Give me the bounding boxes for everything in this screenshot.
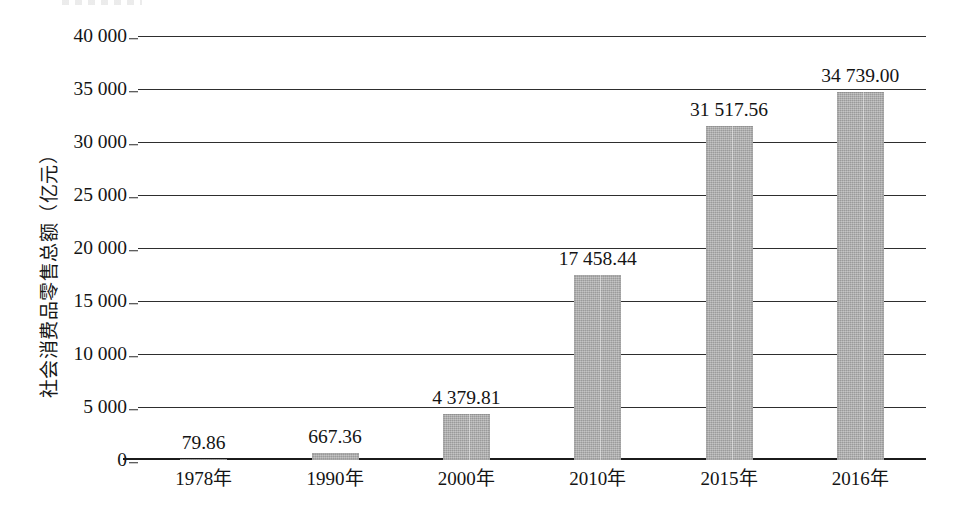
- bar-highlight-seam: [600, 275, 601, 460]
- y-tick-mark: [129, 356, 138, 357]
- x-axis-tick-label: 2010年: [569, 468, 626, 491]
- bar-highlight-seam: [469, 414, 470, 460]
- y-axis-tick-label: 5 000: [52, 397, 138, 417]
- y-tick-text: 30 000: [73, 131, 127, 152]
- y-tick-mark: [129, 91, 138, 92]
- gridline: [138, 248, 926, 249]
- bar: [574, 275, 621, 460]
- y-tick-text: 25 000: [73, 184, 127, 205]
- bar-highlight-seam: [863, 92, 864, 460]
- gridline: [138, 407, 926, 408]
- bar-value-label: 4 379.81: [432, 388, 500, 408]
- y-axis-tick-label: 0: [52, 450, 138, 470]
- y-axis-tick-label: 30 000: [52, 132, 138, 152]
- bar: [706, 126, 753, 460]
- y-tick-text: 10 000: [73, 343, 127, 364]
- bar-value-label: 34 739.00: [821, 66, 899, 86]
- x-axis-line: [123, 458, 926, 460]
- gridline: [138, 354, 926, 355]
- x-axis-tick-label: 1978年: [175, 468, 232, 491]
- bar-value-label: 17 458.44: [559, 249, 637, 269]
- y-axis-tick-label: 20 000: [52, 238, 138, 258]
- gridline: [138, 142, 926, 143]
- y-tick-text: 35 000: [73, 78, 127, 99]
- y-tick-mark: [129, 462, 138, 463]
- y-axis-tick-label: 25 000: [52, 185, 138, 205]
- x-axis-tick-label: 2000年: [438, 468, 495, 491]
- x-axis-tick-label: 1990年: [307, 468, 364, 491]
- y-tick-mark: [129, 197, 138, 198]
- bar: [837, 92, 884, 460]
- gridline: [138, 195, 926, 196]
- bar: [443, 414, 490, 460]
- bar-chart: 社会消费品零售总额（亿元） 05 00010 00015 00020 00025…: [0, 0, 964, 520]
- bar: [312, 453, 359, 460]
- y-tick-text: 40 000: [73, 25, 127, 46]
- y-axis-tick-labels: 05 00010 00015 00020 00025 00030 00035 0…: [52, 0, 138, 520]
- bar-highlight-seam: [732, 126, 733, 460]
- bar: [180, 459, 227, 460]
- x-axis-tick-labels: 1978年1990年2000年2010年2015年2016年: [138, 468, 926, 502]
- y-axis-tick-label: 35 000: [52, 79, 138, 99]
- bar-value-label: 79.86: [182, 433, 226, 453]
- gridline: [138, 89, 926, 90]
- gridline: [138, 301, 926, 302]
- bar-value-label: 31 517.56: [690, 100, 768, 120]
- y-axis-tick-label: 40 000: [52, 26, 138, 46]
- x-axis-tick-label: 2015年: [701, 468, 758, 491]
- x-axis-tick-label: 2016年: [832, 468, 889, 491]
- y-tick-text: 15 000: [73, 290, 127, 311]
- y-tick-mark: [129, 250, 138, 251]
- y-tick-mark: [129, 144, 138, 145]
- y-tick-mark: [129, 303, 138, 304]
- y-axis-tick-label: 15 000: [52, 291, 138, 311]
- plot-area: 79.86667.364 379.8117 458.4431 517.5634 …: [138, 36, 926, 460]
- bar-value-label: 667.36: [308, 427, 362, 447]
- y-tick-mark: [129, 409, 138, 410]
- y-axis-tick-label: 10 000: [52, 344, 138, 364]
- y-tick-text: 5 000: [83, 396, 127, 417]
- y-tick-text: 20 000: [73, 237, 127, 258]
- gridline: [138, 36, 926, 37]
- y-tick-mark: [129, 38, 138, 39]
